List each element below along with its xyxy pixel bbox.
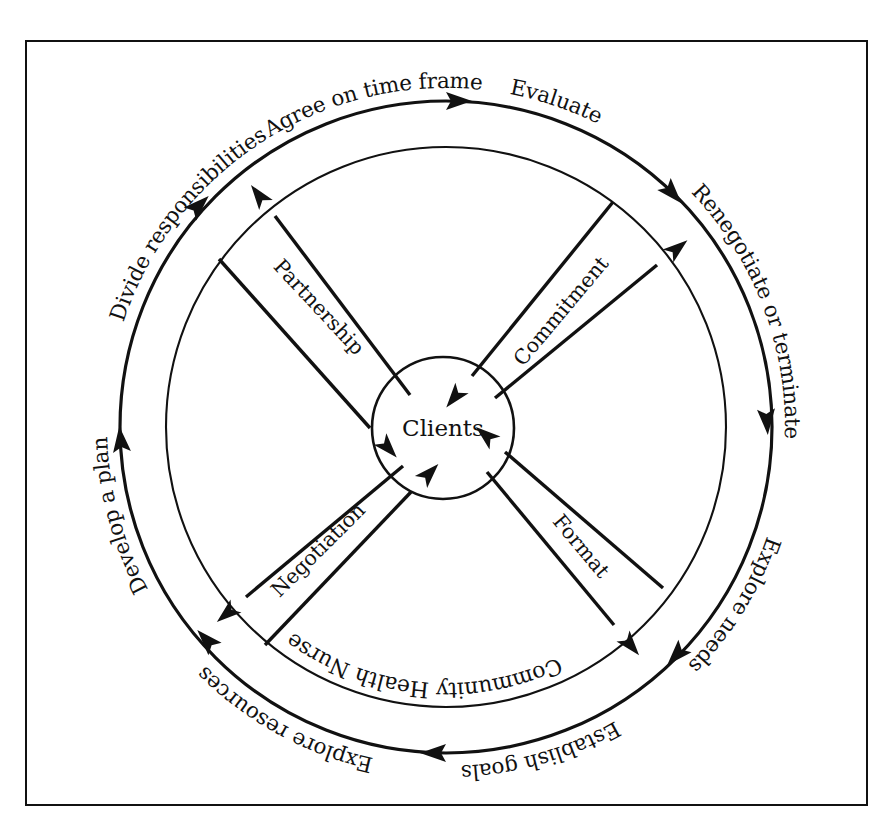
- cycle-arrowhead-right: [757, 408, 777, 435]
- cycle-step-divide-responsibilities: Divide responsibilities: [105, 122, 271, 325]
- figure-canvas: Partnership Commitment Negotiation: [0, 0, 892, 826]
- inner-ring-title-text: Community Health Nurse: [281, 628, 566, 703]
- center-node-label: Clients: [402, 415, 484, 441]
- spoke-label-partnership: Partnership: [269, 254, 370, 359]
- cycle-step-renegotiate-or-terminate: Renegotiate or terminate: [687, 179, 805, 440]
- cycle-step-label: Develop a plan: [87, 436, 153, 599]
- inner-ring-title: Community Health Nurse: [281, 628, 566, 703]
- cycle-step-label: Renegotiate or terminate: [687, 179, 805, 440]
- cycle-arrowhead-lower-left: [191, 624, 222, 655]
- spoke-label-format: Format: [548, 510, 615, 584]
- cycle-diagram: Partnership Commitment Negotiation: [0, 0, 892, 826]
- cycle-step-explore-needs: Explore needs: [684, 534, 786, 679]
- cycle-step-label: Explore needs: [684, 534, 786, 679]
- cycle-step-develop-a-plan: Develop a plan: [87, 436, 153, 599]
- cycle-step-label: Divide responsibilities: [105, 122, 271, 325]
